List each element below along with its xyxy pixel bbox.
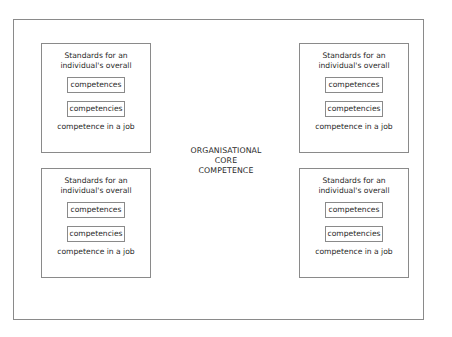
standards-box-bottom-right: Standards for an individual's overall co… bbox=[299, 168, 409, 278]
box-title: Standards for an individual's overall bbox=[300, 176, 408, 197]
box-title-line-2: individual's overall bbox=[60, 61, 131, 70]
box-title-line-1: Standards for an bbox=[322, 51, 385, 60]
box-title-line-2: individual's overall bbox=[60, 186, 131, 195]
box-title-line-2: individual's overall bbox=[318, 61, 389, 70]
center-label-line-1: ORGANISATIONAL bbox=[191, 146, 262, 155]
box-title: Standards for an individual's overall bbox=[300, 51, 408, 72]
competences-box: competences bbox=[325, 77, 383, 93]
box-title-line-2: individual's overall bbox=[318, 186, 389, 195]
box-footer: competence in a job bbox=[42, 247, 150, 257]
box-footer: competence in a job bbox=[42, 122, 150, 132]
center-label-line-2: CORE bbox=[215, 156, 237, 165]
box-footer: competence in a job bbox=[300, 247, 408, 257]
competences-box: competences bbox=[325, 202, 383, 218]
competences-box: competences bbox=[67, 77, 125, 93]
standards-box-bottom-left: Standards for an individual's overall co… bbox=[41, 168, 151, 278]
competencies-box: competencies bbox=[325, 226, 383, 242]
competencies-box: competencies bbox=[325, 101, 383, 117]
competencies-box: competencies bbox=[67, 226, 125, 242]
competences-box: competences bbox=[67, 202, 125, 218]
box-title: Standards for an individual's overall bbox=[42, 51, 150, 72]
center-label-line-3: COMPETENCE bbox=[199, 166, 254, 175]
box-title-line-1: Standards for an bbox=[64, 51, 127, 60]
box-title: Standards for an individual's overall bbox=[42, 176, 150, 197]
organisational-core-competence-label: ORGANISATIONAL CORE COMPETENCE bbox=[166, 146, 286, 176]
box-title-line-1: Standards for an bbox=[322, 176, 385, 185]
box-title-line-1: Standards for an bbox=[64, 176, 127, 185]
standards-box-top-right: Standards for an individual's overall co… bbox=[299, 43, 409, 153]
standards-box-top-left: Standards for an individual's overall co… bbox=[41, 43, 151, 153]
box-footer: competence in a job bbox=[300, 122, 408, 132]
competencies-box: competencies bbox=[67, 101, 125, 117]
